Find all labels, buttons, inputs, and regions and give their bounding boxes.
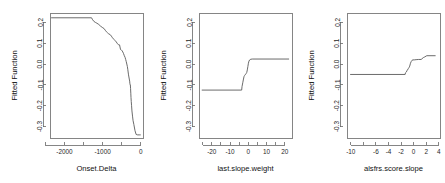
x-tick-label: 0 xyxy=(246,148,250,155)
y-tick-label: -0.3 xyxy=(334,121,341,132)
x-tick-label: -4 xyxy=(386,148,392,155)
y-tick-label: -0.1 xyxy=(334,79,341,90)
x-axis-title: last.slope.weight xyxy=(217,164,274,173)
x-axis-title: Onset.Delta xyxy=(76,164,117,173)
y-tick-label: 0.2 xyxy=(37,17,44,26)
y-tick-label: 0.1 xyxy=(334,38,341,47)
y-tick-label: -0.2 xyxy=(37,100,44,111)
y-tick-label: 0.1 xyxy=(186,38,193,47)
y-tick-label: -0.3 xyxy=(186,121,193,132)
fitted-function-line xyxy=(202,59,289,90)
x-tick-label: -20 xyxy=(207,148,217,155)
y-tick-label: 0.0 xyxy=(334,59,341,68)
y-tick-label: 0.1 xyxy=(37,38,44,47)
x-axis-title: alsfrs.score.slope xyxy=(364,164,423,173)
y-axis-title: Fitted Function xyxy=(307,50,316,100)
x-tick-label: -2000 xyxy=(56,148,73,155)
x-tick-label: 0 xyxy=(412,148,416,155)
fitted-function-line xyxy=(51,18,141,135)
y-tick-label: -0.1 xyxy=(37,79,44,90)
x-tick-label: -10 xyxy=(225,148,235,155)
panel-last-slope-weight: 0.20.10.0-0.1-0.2-0.3-20-1001020Fitted F… xyxy=(149,0,297,183)
plot-box xyxy=(199,13,292,138)
y-tick-label: 0.2 xyxy=(334,17,341,26)
x-tick-label: -6 xyxy=(373,148,379,155)
y-tick-label: 0.0 xyxy=(186,59,193,68)
x-tick-label: -2 xyxy=(398,148,404,155)
x-tick-label: 4 xyxy=(437,148,441,155)
plot-svg: 0.20.10.0-0.1-0.2-0.3-2000-10000Fitted F… xyxy=(0,0,148,183)
y-axis-title: Fitted Function xyxy=(159,50,168,100)
x-tick-label: 2 xyxy=(424,148,428,155)
fitted-function-line xyxy=(350,56,435,75)
y-tick-label: 0.2 xyxy=(186,17,193,26)
x-tick-label: 10 xyxy=(263,148,271,155)
x-tick-label: 20 xyxy=(281,148,289,155)
y-tick-label: 0.0 xyxy=(37,59,44,68)
plot-box xyxy=(347,13,440,138)
y-tick-label: -0.1 xyxy=(186,79,193,90)
x-tick-label: -1000 xyxy=(94,148,111,155)
plot-svg: 0.20.10.0-0.1-0.2-0.3-10-6-4-2024Fitted … xyxy=(297,0,445,183)
y-axis-title: Fitted Function xyxy=(10,50,19,100)
y-tick-label: -0.3 xyxy=(37,121,44,132)
y-tick-label: -0.2 xyxy=(334,100,341,111)
plot-svg: 0.20.10.0-0.1-0.2-0.3-20-1001020Fitted F… xyxy=(149,0,297,183)
x-tick-label: -10 xyxy=(346,148,356,155)
y-tick-label: -0.2 xyxy=(186,100,193,111)
x-tick-label: 0 xyxy=(139,148,143,155)
panel-alsfrs-score-slope: 0.20.10.0-0.1-0.2-0.3-10-6-4-2024Fitted … xyxy=(297,0,445,183)
panel-onset-delta: 0.20.10.0-0.1-0.2-0.3-2000-10000Fitted F… xyxy=(0,0,148,183)
fitted-function-figure: 0.20.10.0-0.1-0.2-0.3-2000-10000Fitted F… xyxy=(0,0,445,183)
